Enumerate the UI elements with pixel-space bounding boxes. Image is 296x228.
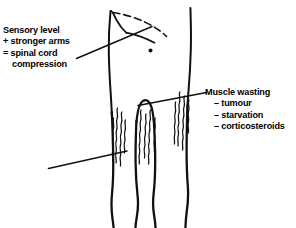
clinical-figure-canvas: Sensory level + stronger arms = spinal c… bbox=[0, 0, 296, 228]
callout-left-line-2: + stronger arms bbox=[3, 36, 70, 47]
callout-right-line-3: – starvation bbox=[205, 110, 285, 121]
callout-right-line-1: Muscle wasting bbox=[205, 87, 285, 98]
callout-left-line-1: Sensory level bbox=[3, 25, 70, 36]
callout-right-line-4: – corticosteroids bbox=[205, 121, 285, 132]
spinal-cord-compression-callout: Sensory level + stronger arms = spinal c… bbox=[3, 25, 70, 71]
torso-dot-marker bbox=[149, 49, 153, 53]
callout-left-line-4: compression bbox=[3, 59, 70, 70]
callout-left-line-3: = spinal cord bbox=[3, 48, 70, 59]
muscle-wasting-callout: Muscle wasting – tumour – starvation – c… bbox=[205, 87, 285, 133]
callout-right-line-2: – tumour bbox=[205, 98, 285, 109]
